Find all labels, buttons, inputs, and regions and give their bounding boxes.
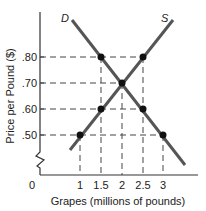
x-axis-title: Grapes (millions of pounds) xyxy=(51,195,186,207)
y-tick-label: .80 xyxy=(22,51,37,63)
point-d-3-0.50 xyxy=(160,132,167,139)
x-tick-label: 2 xyxy=(119,179,125,191)
point-s-1.5-0.60 xyxy=(98,106,105,113)
x-tick-label: 2.5 xyxy=(135,179,150,191)
demand-label: D xyxy=(61,12,69,24)
x-tick-label: 1 xyxy=(77,179,83,191)
x-tick-label: 1.5 xyxy=(93,179,108,191)
supply-label: S xyxy=(161,12,169,24)
point-equilibrium xyxy=(119,80,126,87)
supply-demand-chart: D S .80 .70 .60 .50 0 1 1.5 2 2.5 3 Grap… xyxy=(0,0,206,211)
y-tick-label: .50 xyxy=(22,129,37,141)
point-s-1-0.50 xyxy=(77,132,84,139)
dashed-reference-lines xyxy=(40,57,163,175)
y-tick-label: .60 xyxy=(22,103,37,115)
x-tick-label: 3 xyxy=(160,179,166,191)
point-s-2.5-0.80 xyxy=(140,54,147,61)
y-axis xyxy=(36,12,44,175)
y-tick-label: .70 xyxy=(22,77,37,89)
y-axis-title: Price per Pound ($) xyxy=(4,48,16,143)
demand-curve xyxy=(72,20,185,165)
point-d-1.5-0.80 xyxy=(98,54,105,61)
x-tick-label: 0 xyxy=(29,179,35,191)
point-d-2.5-0.60 xyxy=(140,106,147,113)
